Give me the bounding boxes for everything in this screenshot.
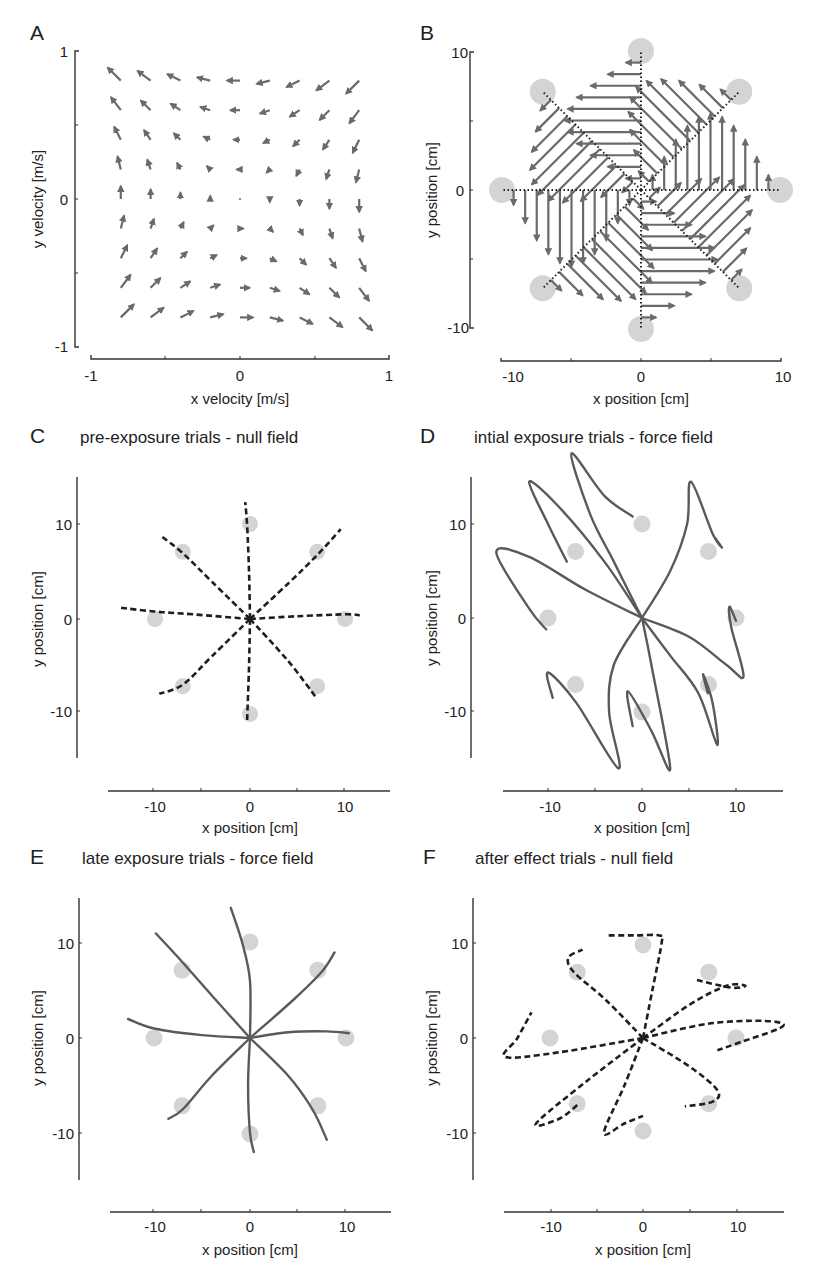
force-arrow (592, 239, 646, 293)
force-arrow (329, 258, 336, 268)
force-arrow (207, 166, 210, 169)
y-axis-label: y velocity [m/s] (29, 150, 46, 248)
trajectory (121, 608, 250, 619)
x-axis: -10 0 10 x position [cm] (504, 1209, 784, 1258)
target-circle (309, 544, 325, 560)
panel-letter: B (420, 21, 434, 44)
y-tick-label: 0 (60, 191, 68, 208)
x-axis: -10 0 10 x position [cm] (108, 788, 390, 836)
force-arrow (630, 97, 682, 149)
force-arrow (108, 68, 121, 81)
x-tick-label: -10 (144, 1218, 166, 1235)
force-arrow (180, 222, 183, 229)
force-arrow (151, 308, 164, 318)
target-circle (635, 937, 652, 954)
x-tick-label: 10 (729, 798, 746, 815)
trajectory (247, 619, 250, 720)
y-axis: 10 0 -10 y position [cm] (423, 44, 474, 336)
x-tick-label: 0 (639, 1218, 647, 1235)
trajectory (571, 453, 642, 618)
target-circle (700, 543, 717, 560)
target-circle (174, 1097, 191, 1114)
force-arrow (359, 258, 366, 271)
force-arrow (356, 169, 359, 182)
force-arrow (679, 81, 715, 117)
x-axis: -10 0 10 x position [cm] (110, 1209, 391, 1258)
force-arrow (636, 87, 690, 141)
force-arrow (715, 228, 751, 264)
force-arrow (584, 247, 636, 299)
y-tick-label: 0 (456, 182, 464, 199)
x-axis: -10 0 10 x position [cm] (503, 788, 783, 836)
force-arrow (300, 288, 310, 295)
force-arrow (121, 216, 124, 229)
target-circle (569, 964, 586, 981)
panel-letter: A (30, 21, 44, 44)
target-circle (767, 177, 793, 203)
x-tick-label: -1 (84, 367, 97, 384)
trajectory (496, 548, 642, 629)
force-arrow (111, 97, 121, 110)
y-tick-label: 10 (451, 935, 468, 952)
target-circle (146, 1030, 163, 1047)
force-arrow (548, 149, 600, 201)
x-axis: -10 0 10 x position [cm] (501, 358, 791, 407)
y-tick-label: 0 (460, 1030, 468, 1047)
force-arrow (270, 258, 277, 261)
x-tick-label: 10 (775, 368, 792, 385)
x-tick-label: -10 (502, 368, 524, 385)
x-tick-label: 10 (337, 798, 354, 815)
trajectories (128, 908, 349, 1152)
force-arrow (210, 255, 217, 258)
x-tick-label: 0 (246, 798, 254, 815)
force-arrow (600, 231, 652, 283)
force-arrow (270, 317, 283, 320)
panel-letter: F (423, 845, 436, 868)
force-arrow (290, 110, 300, 117)
panel-letter: D (420, 424, 435, 447)
force-arrow (296, 169, 299, 176)
force-arrow (359, 288, 369, 301)
target-circle (628, 38, 654, 64)
trajectory (627, 618, 670, 770)
trajectory (643, 1021, 784, 1051)
x-tick-label: 10 (730, 1218, 747, 1235)
y-tick-label: 0 (64, 611, 72, 628)
trajectory (642, 607, 744, 678)
y-axis: 1 0 -1 y velocity [m/s] (29, 43, 79, 355)
trajectory (250, 1038, 327, 1140)
force-arrow (171, 104, 181, 111)
panel-letter: C (30, 424, 45, 447)
force-arrow (204, 137, 211, 140)
panel-b: B 10 0 -10 y position [cm] -10 0 10 x po… (420, 21, 793, 407)
x-tick-label: -10 (144, 798, 166, 815)
x-tick-label: 0 (236, 367, 244, 384)
trajectory (250, 1031, 349, 1038)
trajectory (162, 537, 250, 619)
force-arrow (118, 156, 121, 169)
force-arrow (349, 110, 359, 123)
target-circle (567, 543, 584, 560)
force-arrow (682, 179, 734, 231)
force-arrow (180, 252, 187, 259)
y-axis-label: y position [cm] (423, 142, 440, 238)
force-arrow (270, 229, 273, 232)
panel-title: after effect trials - null field (475, 849, 673, 868)
x-tick-label: 0 (638, 798, 646, 815)
force-arrow (151, 219, 154, 229)
force-arrow (300, 229, 303, 236)
panel-title: late exposure trials - force field (82, 849, 314, 868)
force-arrow (329, 317, 342, 327)
y-tick-label: -10 (50, 703, 72, 720)
x-tick-label: 0 (637, 368, 645, 385)
y-axis: 10 0 -10 y position [cm] (423, 898, 476, 1180)
y-axis: 10 0 -10 y position [cm] (423, 477, 474, 758)
y-tick-label: 1 (60, 43, 68, 60)
force-arrow (329, 229, 332, 239)
force-arrow (326, 169, 329, 179)
force-arrow (137, 71, 150, 81)
force-arrow (210, 314, 223, 317)
figure: A 1 0 -1 y velocity [m/s] -1 0 1 x veloc… (0, 0, 814, 1281)
y-tick-label: 0 (458, 610, 466, 627)
force-arrow (320, 110, 330, 120)
